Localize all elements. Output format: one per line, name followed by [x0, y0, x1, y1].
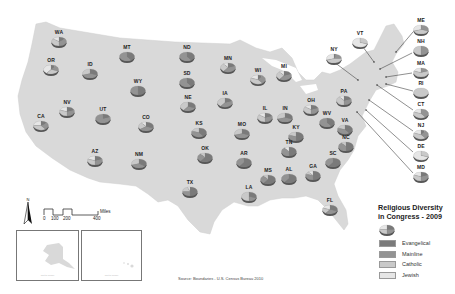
pie-chart-icon	[379, 225, 395, 237]
legend-item-mainline: Mainline	[379, 250, 422, 258]
state-pie-mt	[119, 50, 135, 61]
state-pie-ia	[217, 96, 233, 107]
pie-chart-icon	[59, 107, 75, 119]
pie-chart-icon	[413, 151, 429, 163]
leader-line	[366, 110, 413, 152]
state-pie-me	[413, 23, 429, 34]
state-pie-ks	[191, 126, 207, 137]
leader-dot	[379, 68, 381, 70]
state-label: ID	[87, 61, 92, 67]
pie-chart-icon	[130, 86, 146, 98]
state-pie-oh	[303, 103, 319, 114]
pie-chart-icon	[241, 192, 257, 204]
pie-chart-icon	[257, 113, 273, 125]
inset-hawaii: Not to Scale	[81, 230, 142, 281]
state-pie-ny	[326, 52, 342, 63]
pie-chart-icon	[281, 174, 297, 186]
state-label: IL	[263, 105, 268, 111]
state-label: OH	[307, 97, 315, 103]
legend-title: Religious Diversity in Congress - 2009	[378, 204, 455, 221]
leader-dot	[376, 84, 378, 86]
pie-chart-icon	[325, 158, 341, 170]
north-arrow-icon: N	[22, 196, 34, 226]
state-pie-ct	[413, 107, 429, 118]
pie-chart-icon	[413, 68, 429, 80]
state-label: TX	[187, 179, 194, 185]
state-label: SC	[329, 150, 336, 156]
north-arrow-label: N	[27, 197, 30, 202]
state-label: OK	[201, 145, 209, 151]
state-label: NJ	[418, 122, 425, 128]
state-label: WY	[134, 78, 142, 84]
state-label: CA	[37, 113, 44, 119]
state-pie-wa	[51, 35, 67, 46]
pie-chart-icon	[51, 37, 67, 49]
state-pie-id	[82, 67, 98, 78]
state-pie-ok	[197, 151, 213, 162]
state-label: TN	[286, 139, 293, 145]
pie-chart-icon	[191, 128, 207, 140]
state-pie-or	[43, 63, 59, 74]
legend-item-jewish: Jewish	[379, 271, 419, 279]
state-label: ME	[417, 17, 425, 23]
pie-chart-icon	[326, 54, 342, 66]
legend-label: Evangelical	[402, 240, 430, 246]
state-label: RI	[418, 80, 423, 86]
pie-chart-icon	[413, 130, 429, 142]
legend-label: Mainline	[402, 251, 422, 257]
leader-dot	[385, 76, 387, 78]
pie-chart-icon	[336, 96, 352, 108]
state-pie-co	[138, 120, 154, 131]
state-pie-ca	[33, 119, 49, 130]
state-pie-mi	[276, 69, 292, 80]
state-label: NV	[63, 99, 70, 105]
state-pie-in	[277, 111, 293, 122]
state-pie-wy	[130, 84, 146, 95]
state-pie-pa	[336, 94, 352, 105]
inset-note: Not to Scale	[17, 274, 78, 277]
state-pie-ms	[260, 173, 276, 184]
inset-alaska: Not to Scale	[16, 230, 79, 281]
mainline-swatch	[379, 251, 396, 258]
pie-chart-icon	[197, 153, 213, 165]
pie-chart-icon	[43, 65, 59, 77]
state-label: NM	[135, 151, 143, 157]
pie-chart-icon	[220, 63, 236, 75]
state-pie-sd	[179, 76, 195, 87]
leader-line	[377, 85, 413, 110]
state-pie-ma	[413, 66, 429, 77]
state-pie-az	[87, 154, 103, 165]
leader-dot	[395, 51, 397, 53]
legend-title-line2: in Congress - 2009	[378, 213, 455, 222]
pie-chart-icon	[413, 109, 429, 121]
state-label: MO	[238, 121, 246, 127]
pie-chart-icon	[87, 156, 103, 168]
scale-tick-100: 100	[51, 216, 59, 221]
state-pie-ga	[305, 169, 321, 180]
state-label: MN	[224, 55, 232, 61]
leader-dot	[356, 111, 358, 113]
pie-chart-icon	[277, 113, 293, 125]
leader-dot	[357, 79, 359, 81]
state-label: UT	[100, 106, 107, 112]
leader-dot	[373, 61, 375, 63]
pie-chart-icon	[234, 129, 250, 141]
pie-chart-icon	[322, 205, 338, 217]
legend-label: Catholic	[402, 261, 422, 267]
pie-chart-icon	[305, 171, 321, 183]
state-pie-tx	[182, 185, 198, 196]
state-label: AL	[286, 166, 293, 172]
state-label: DE	[417, 143, 424, 149]
state-pie-ut	[95, 112, 111, 123]
pie-chart-icon	[413, 46, 429, 58]
state-pie-nh	[413, 44, 429, 55]
hawaii-shape	[122, 261, 136, 269]
state-pie-il	[257, 111, 273, 122]
state-pie-de	[413, 149, 429, 160]
alaska-shape	[41, 241, 77, 273]
state-label: VA	[342, 117, 349, 123]
state-label: KY	[292, 124, 299, 130]
state-pie-mo	[234, 127, 250, 138]
state-label: WI	[255, 67, 261, 73]
state-label: FL	[327, 197, 333, 203]
